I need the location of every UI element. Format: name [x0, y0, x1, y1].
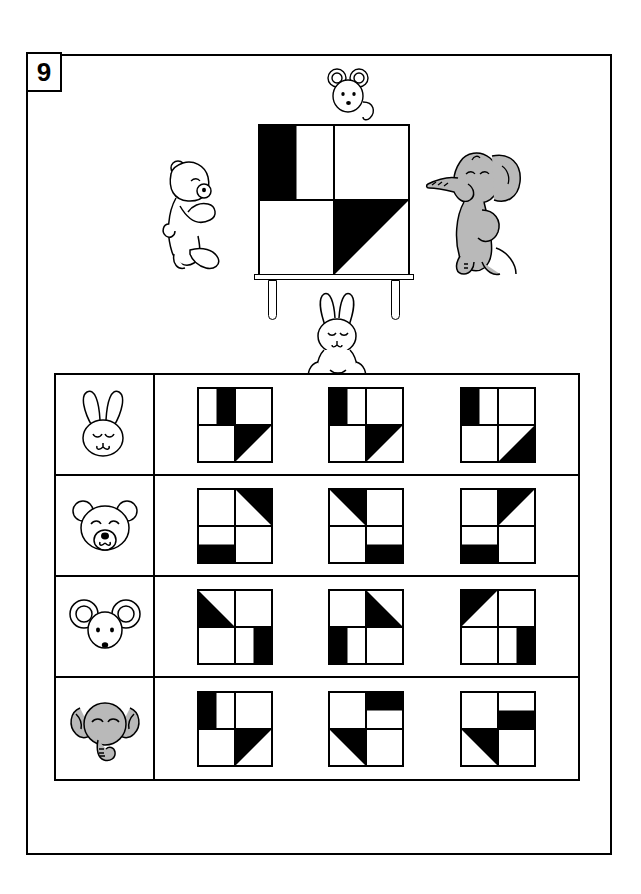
tile-quad-tl — [461, 590, 498, 627]
option-tile[interactable] — [328, 387, 404, 463]
option-tile[interactable] — [328, 589, 404, 665]
row-animal-cell — [56, 375, 155, 474]
board-quadrants — [259, 125, 409, 275]
option-tile[interactable] — [328, 691, 404, 767]
bear-head-icon — [68, 491, 142, 561]
tile-quad-tl — [198, 388, 235, 425]
tile-quad-tl — [329, 590, 366, 627]
tile-quad-br — [366, 425, 403, 462]
tile-quad-bl — [329, 425, 366, 462]
board-quad-br — [334, 200, 409, 275]
option-tile[interactable] — [197, 387, 273, 463]
tile-quad-br — [366, 627, 403, 664]
tile-quad-bl — [461, 425, 498, 462]
row-animal-cell — [56, 678, 155, 779]
tile-quad-tl — [198, 489, 235, 526]
tile-quad-br — [235, 425, 272, 462]
worksheet-page: 9 — [0, 0, 641, 894]
elephant-character — [424, 144, 536, 280]
tile-quad-br — [235, 729, 272, 766]
tile-quad-tl — [461, 388, 498, 425]
tile-quad-tl — [198, 590, 235, 627]
option-tile[interactable] — [197, 589, 273, 665]
tile-quad-tr — [498, 388, 535, 425]
tile-quad-tr — [235, 388, 272, 425]
table-row — [56, 375, 578, 476]
tile-quad-tl — [329, 388, 366, 425]
tile-quad-br — [498, 627, 535, 664]
row-animal-cell — [56, 476, 155, 575]
tile-quad-tl — [329, 489, 366, 526]
row-animal-cell — [56, 577, 155, 676]
tile-quad-tr — [235, 489, 272, 526]
row-options — [155, 678, 578, 779]
option-tile[interactable] — [460, 589, 536, 665]
tile-quad-bl — [461, 627, 498, 664]
option-tile[interactable] — [328, 488, 404, 564]
board-quad-tr — [334, 125, 409, 200]
tile-quad-tr — [235, 590, 272, 627]
tile-quad-tl — [461, 692, 498, 729]
board-quad-bl — [259, 200, 334, 275]
tile-quad-bl — [329, 729, 366, 766]
option-tile[interactable] — [460, 387, 536, 463]
pattern-board-assembly — [258, 124, 418, 304]
mouse-head-icon — [68, 592, 142, 662]
tile-quad-tr — [366, 388, 403, 425]
row-options — [155, 577, 578, 676]
tile-quad-bl — [198, 526, 235, 563]
tile-quad-bl — [198, 627, 235, 664]
option-tile[interactable] — [197, 488, 273, 564]
mouse-character — [318, 66, 380, 128]
table-row — [56, 476, 578, 577]
tile-quad-bl — [198, 729, 235, 766]
tile-quad-tr — [498, 489, 535, 526]
board-quad-tl — [259, 125, 334, 200]
tile-quad-tr — [366, 590, 403, 627]
tile-quad-tl — [329, 692, 366, 729]
option-tile[interactable] — [197, 691, 273, 767]
tile-quad-br — [366, 526, 403, 563]
tile-quad-tr — [366, 692, 403, 729]
tile-quad-tr — [235, 692, 272, 729]
page-number-badge: 9 — [26, 52, 62, 92]
tile-quad-bl — [198, 425, 235, 462]
option-tile[interactable] — [460, 691, 536, 767]
tile-quad-bl — [329, 627, 366, 664]
tile-quad-tr — [366, 489, 403, 526]
tile-quad-tl — [198, 692, 235, 729]
answer-table — [54, 373, 580, 781]
row-options — [155, 476, 578, 575]
tile-quad-bl — [461, 729, 498, 766]
scene — [28, 56, 610, 424]
board-leg-left — [268, 280, 277, 320]
tile-quad-bl — [461, 526, 498, 563]
tile-quad-tl — [461, 489, 498, 526]
tile-quad-br — [235, 526, 272, 563]
tile-quad-bl — [329, 526, 366, 563]
tile-quad-br — [498, 425, 535, 462]
option-tile[interactable] — [460, 488, 536, 564]
pattern-board — [258, 124, 410, 276]
tile-quad-br — [366, 729, 403, 766]
tile-quad-br — [498, 729, 535, 766]
tile-quad-tr — [498, 692, 535, 729]
elephant-head-icon — [68, 694, 142, 764]
table-row — [56, 577, 578, 678]
table-row — [56, 678, 578, 779]
board-leg-right — [391, 280, 400, 320]
tile-quad-br — [235, 627, 272, 664]
bear-character — [158, 154, 242, 272]
tile-quad-tr — [498, 590, 535, 627]
bunny-head-icon — [68, 390, 142, 460]
board-ledge — [254, 274, 414, 280]
row-options — [155, 375, 578, 474]
tile-quad-br — [498, 526, 535, 563]
